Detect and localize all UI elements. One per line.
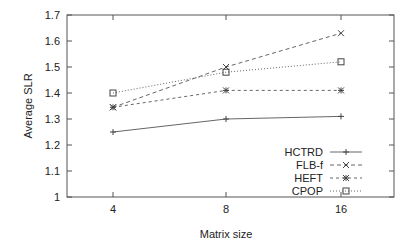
legend-label: CPOP	[292, 185, 323, 197]
legend: HCTRDFLB-fHEFTCPOP	[285, 146, 363, 197]
plot-axes: 11.11.21.31.41.51.61.74816	[45, 9, 394, 215]
y-tick-label: 1.5	[45, 61, 60, 73]
x-tick-label: 16	[335, 203, 347, 215]
y-tick-label: 1.3	[45, 113, 60, 125]
legend-item-heft: HEFT	[294, 172, 362, 184]
legend-item-hctrd: HCTRD	[285, 146, 363, 158]
y-tick-label: 1.1	[45, 165, 60, 177]
legend-label: HEFT	[294, 172, 323, 184]
y-tick-label: 1	[54, 191, 60, 203]
legend-label: HCTRD	[285, 146, 324, 158]
y-axis-label: Average SLR	[22, 73, 34, 138]
y-tick-label: 1.4	[45, 87, 60, 99]
y-tick-label: 1.2	[45, 139, 60, 151]
legend-item-cpop: CPOP	[292, 185, 362, 197]
x-tick-label: 8	[223, 203, 229, 215]
plot-series	[110, 30, 344, 135]
series-flb-f	[110, 30, 344, 110]
legend-label: FLB-f	[296, 159, 324, 171]
series-heft	[110, 87, 344, 110]
legend-item-flb-f: FLB-f	[296, 159, 362, 171]
x-axis-label: Matrix size	[200, 228, 253, 240]
y-tick-label: 1.7	[45, 9, 60, 21]
y-tick-label: 1.6	[45, 35, 60, 47]
x-tick-label: 4	[110, 203, 116, 215]
line-chart: 11.11.21.31.41.51.61.74816 HCTRDFLB-fHEF…	[0, 0, 404, 244]
series-hctrd	[110, 113, 344, 135]
